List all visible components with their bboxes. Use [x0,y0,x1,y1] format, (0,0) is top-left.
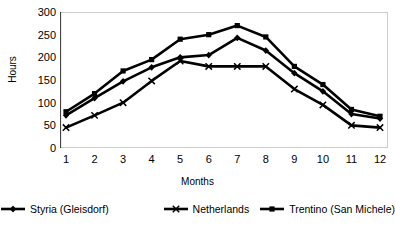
x-tick-label: 12 [368,154,392,165]
x-tick-label: 6 [197,154,221,165]
legend-marker-x-icon [163,203,189,215]
legend-label: Trentino (San Michele) [289,204,395,215]
legend-item: Styria (Gleisdorf) [0,203,109,215]
x-tick-label: 9 [282,154,306,165]
x-tick-label: 8 [254,154,278,165]
legend-marker-square-icon [259,203,285,215]
x-tick-label: 7 [225,154,249,165]
line-chart-figure: Hours 050100150200250300 123456789101112… [0,0,395,226]
legend-label: Styria (Gleisdorf) [30,204,109,215]
legend-item: Trentino (San Michele) [259,203,395,215]
legend-item: Netherlands [163,203,250,215]
x-tick-label: 4 [140,154,164,165]
x-tick-label: 5 [168,154,192,165]
legend-marker-diamond-icon [0,203,26,215]
x-axis-title: Months [0,176,395,187]
legend-label: Netherlands [193,204,250,215]
x-tick-label: 3 [111,154,135,165]
x-tick-label: 11 [339,154,363,165]
x-tick-label: 2 [83,154,107,165]
chart-legend: Styria (Gleisdorf)NetherlandsTrentino (S… [0,198,395,220]
x-axis-tick-labels: 123456789101112 [0,0,395,226]
x-tick-label: 10 [311,154,335,165]
x-tick-label: 1 [54,154,78,165]
